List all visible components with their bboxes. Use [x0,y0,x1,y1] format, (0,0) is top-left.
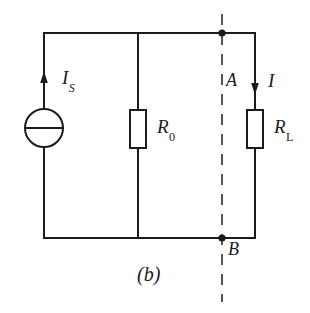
resistor-rl-body [247,110,263,148]
node-b-dot [218,234,225,241]
resistor-rl-subscript: L [286,130,294,144]
resistor-r0-label: R0 [157,117,175,136]
circuit-figure: IS R0 RL I A B (b) [0,0,310,313]
resistor-r0-body [130,110,146,148]
resistor-rl-label: RL [274,117,293,136]
branch-current-label: I [268,71,274,90]
load-current-arrow-icon [251,83,259,95]
resistor-rl-symbol: R [274,116,286,137]
source-current-label: IS [62,68,75,87]
resistor-r0-subscript: 0 [169,130,175,144]
source-current-arrow-icon [40,71,48,83]
resistor-r0-symbol: R [157,116,169,137]
terminal-b-label: B [228,240,239,258]
node-a-dot [218,29,225,36]
circuit-wires [44,33,255,238]
current-source-symbol [25,109,63,147]
source-current-subscript: S [68,81,74,95]
figure-caption: (b) [137,264,160,284]
terminal-a-label: A [226,71,237,89]
